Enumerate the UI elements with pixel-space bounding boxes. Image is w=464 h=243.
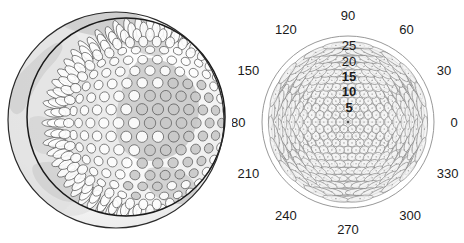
beam-cell (223, 163, 232, 180)
beam-marker-dot (303, 128, 304, 129)
beam-marker-dot (388, 66, 389, 67)
beam-cell (225, 157, 232, 172)
beam-marker-dot (388, 177, 389, 178)
beam-marker-dot (335, 156, 336, 157)
beam-marker-dot (323, 108, 324, 109)
beam-marker-dot (376, 142, 377, 143)
beam-marker-dot (319, 114, 320, 115)
beam-marker-dot (339, 108, 340, 109)
beam-marker-dot (368, 59, 369, 60)
beam-cell (219, 167, 232, 183)
beam-marker-dot (412, 108, 413, 109)
beam-marker-dot (327, 87, 328, 88)
beam-marker-dot (343, 101, 344, 102)
beam-cell (212, 176, 230, 193)
beam-marker-dot (331, 177, 332, 178)
beam-marker-dot (315, 80, 316, 81)
beam-marker-dot (368, 184, 369, 185)
beam-marker-dot (360, 114, 361, 115)
beam-marker-dot (388, 135, 389, 136)
beam-marker-dot (339, 94, 340, 95)
beam-marker-dot (287, 170, 288, 171)
beam-marker-dot (339, 121, 340, 122)
beam-marker-dot (351, 128, 352, 129)
angular-tick-label-270: 270 (337, 222, 359, 237)
beam-marker-dot (380, 94, 381, 95)
beam-marker-dot (384, 114, 385, 115)
beam-marker-dot (319, 156, 320, 157)
angular-tick-label-30: 30 (437, 63, 451, 78)
beam-marker-dot (315, 191, 316, 192)
beam-marker-dot (384, 73, 385, 74)
beam-marker-dot (360, 128, 361, 129)
beam-marker-dot (283, 135, 284, 136)
beam-marker-dot (356, 149, 357, 150)
beam-cell (203, 39, 224, 61)
angular-tick-label-0: 0 (451, 115, 458, 130)
beam-marker-dot (368, 156, 369, 157)
beam-cell (212, 170, 228, 185)
beam-marker-dot (339, 66, 340, 67)
beam-marker-dot (388, 121, 389, 122)
beam-cell (218, 152, 231, 165)
beam-cell (145, 46, 154, 53)
beam-cell (128, 117, 139, 128)
beam-marker-dot (416, 128, 417, 129)
beam-marker-dot (392, 73, 393, 74)
beam-marker-dot (343, 142, 344, 143)
beam-marker-dot (420, 108, 421, 109)
beam-marker-dot (287, 128, 288, 129)
beam-marker-dot (360, 170, 361, 171)
beam-marker-dot (404, 135, 405, 136)
beam-marker-dot (299, 108, 300, 109)
beam-marker-dot (360, 198, 361, 199)
beam-marker-dot (360, 45, 361, 46)
beam-marker-dot (384, 59, 385, 60)
beam-marker-dot (323, 66, 324, 67)
beam-marker-dot (275, 149, 276, 150)
beam-cell (190, 195, 208, 218)
beam-cell (224, 140, 232, 152)
beam-marker-dot (311, 142, 312, 143)
beam-marker-dot (392, 114, 393, 115)
beam-cell (217, 56, 232, 75)
beam-marker-dot (335, 170, 336, 171)
beam-marker-dot (307, 149, 308, 150)
beam-marker-dot (319, 87, 320, 88)
beam-cell (197, 190, 215, 211)
beam-marker-dot (372, 177, 373, 178)
angular-tick-label-150: 150 (237, 63, 259, 78)
beam-cell (75, 118, 83, 127)
beam-cell (205, 184, 223, 203)
beam-marker-dot (360, 73, 361, 74)
beam-marker-dot (380, 80, 381, 81)
beam-cell (219, 72, 232, 86)
beam-marker-dot (343, 156, 344, 157)
beam-marker-dot (335, 101, 336, 102)
beam-marker-dot (384, 87, 385, 88)
beam-marker-dot (364, 121, 365, 122)
beam-marker-dot (392, 142, 393, 143)
beam-marker-dot (327, 170, 328, 171)
beam-marker-dot (376, 87, 377, 88)
beam-cell (205, 44, 223, 63)
beam-cell (113, 118, 124, 129)
beam-marker-dot (388, 94, 389, 95)
beam-marker-dot (303, 114, 304, 115)
beam-marker-dot (331, 163, 332, 164)
beam-marker-dot (351, 170, 352, 171)
beam-marker-dot (343, 170, 344, 171)
beam-marker-dot (420, 149, 421, 150)
beam-marker-dot (311, 156, 312, 157)
beam-marker-dot (307, 94, 308, 95)
beam-marker-dot (376, 101, 377, 102)
beam-marker-dot (283, 108, 284, 109)
beam-marker-dot (416, 114, 417, 115)
beam-marker-dot (327, 101, 328, 102)
beam-marker-dot (283, 121, 284, 122)
beam-marker-dot (323, 135, 324, 136)
beam-marker-dot (351, 156, 352, 157)
beam-marker-dot (360, 101, 361, 102)
beam-marker-dot (368, 73, 369, 74)
beam-marker-dot (299, 121, 300, 122)
